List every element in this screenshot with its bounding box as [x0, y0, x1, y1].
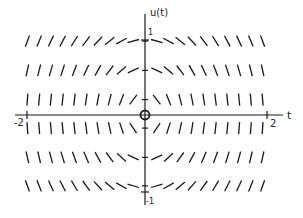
slope-segment — [166, 94, 170, 105]
slope-segment — [94, 37, 102, 46]
slope-segment — [212, 36, 218, 46]
slope-segment — [191, 94, 193, 106]
slope-segment — [226, 152, 230, 164]
slope-segment — [37, 36, 42, 47]
slope-segment — [71, 181, 77, 191]
slope-segment — [151, 184, 163, 187]
slope-segment — [225, 181, 231, 192]
slope-segment — [27, 94, 28, 106]
slope-segment — [117, 66, 126, 74]
slope-segment — [72, 65, 76, 76]
slope-segment — [48, 36, 53, 47]
slope-segment — [74, 94, 76, 106]
slope-segment — [262, 122, 263, 134]
slope-segment — [26, 65, 29, 77]
slope-segment — [50, 94, 51, 106]
slope-segment — [227, 122, 228, 134]
slope-segment — [94, 181, 102, 190]
slope-segment — [201, 152, 206, 163]
slope-segment — [239, 94, 240, 106]
direction-field-plot: u(t) t 1 -1 -2 2 — [0, 0, 303, 218]
slope-segment — [130, 123, 137, 133]
slope-segment — [261, 65, 264, 77]
slope-segment — [116, 183, 127, 189]
slope-segment — [215, 94, 217, 106]
slope-segment — [128, 184, 140, 187]
slope-segment — [188, 181, 196, 190]
slope-segment — [189, 152, 195, 163]
axis-ticks — [27, 40, 267, 192]
slope-segment — [179, 122, 182, 134]
slope-segment — [108, 94, 111, 106]
slope-segment — [238, 152, 241, 164]
slope-segment — [249, 65, 252, 77]
slope-segment — [116, 38, 127, 44]
slope-segment — [237, 36, 242, 47]
slope-segment — [191, 122, 193, 134]
slope-segment — [97, 122, 99, 134]
slope-segment — [60, 181, 66, 192]
slope-segment — [237, 180, 242, 191]
slope-segment — [164, 66, 173, 74]
slope-segment — [105, 182, 114, 190]
slope-segment — [164, 153, 173, 161]
slope-segment — [203, 94, 205, 106]
slope-segment — [117, 153, 126, 161]
slope-segment — [27, 122, 28, 134]
slope-segment — [163, 38, 174, 44]
slope-segment — [188, 37, 196, 46]
slope-segment — [214, 152, 218, 163]
slope-segment — [60, 36, 66, 47]
slope-segment — [38, 152, 41, 164]
slope-segment — [201, 65, 206, 76]
slope-segment — [153, 123, 160, 133]
slope-segment — [225, 36, 231, 47]
slope-segment — [95, 152, 101, 163]
slope-segment — [213, 181, 219, 191]
slope-segment — [39, 94, 40, 106]
slope-segment — [84, 152, 89, 163]
slope-segment — [213, 65, 217, 76]
slope-segment — [84, 65, 89, 76]
slope-segment — [128, 155, 139, 160]
slope-segment — [25, 180, 29, 191]
slope-segment — [119, 94, 123, 105]
slope-segment — [106, 66, 113, 76]
slope-segment — [61, 152, 65, 164]
slope-segment — [130, 95, 137, 104]
slope-segment — [227, 94, 228, 106]
slope-segment — [237, 65, 240, 77]
slope-segment — [128, 68, 139, 73]
slope-segment — [62, 122, 63, 134]
slope-segment — [71, 36, 77, 46]
u-axis-label: u(t) — [150, 7, 168, 18]
slope-segment — [83, 36, 90, 46]
slope-segment — [261, 180, 265, 191]
slope-segment — [49, 152, 52, 164]
y-tick-label-1: 1 — [148, 28, 153, 37]
slope-segment — [177, 66, 184, 76]
slope-segment — [26, 152, 29, 164]
slope-segment — [25, 36, 29, 47]
slope-segment — [39, 122, 40, 134]
slope-segment — [49, 180, 54, 191]
slope-segment — [108, 122, 111, 134]
slope-segment — [200, 36, 207, 46]
slope-segment — [50, 122, 51, 134]
t-axis-label: t — [287, 109, 292, 122]
slope-segment — [72, 152, 76, 163]
slope-segment — [189, 65, 195, 76]
slope-segment — [163, 183, 174, 189]
slope-segment — [106, 153, 113, 163]
slope-segment — [95, 65, 101, 76]
slope-segment — [203, 122, 205, 134]
slope-segment — [250, 94, 251, 106]
y-tick-label-neg1: -1 — [146, 197, 154, 206]
slope-segment — [85, 122, 87, 134]
slope-segment — [151, 155, 162, 160]
slope-segment — [167, 122, 171, 133]
slope-segment — [249, 180, 254, 191]
slope-segment — [62, 94, 63, 106]
slope-segment — [261, 36, 265, 47]
slope-segment — [177, 153, 184, 163]
